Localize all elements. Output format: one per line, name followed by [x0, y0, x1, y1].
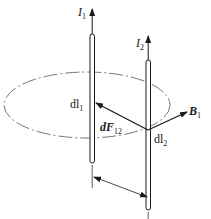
element-label-dl1: dl1	[70, 98, 83, 113]
field-arrow	[148, 112, 187, 130]
wire-2	[146, 36, 151, 219]
field-label-b1: B1	[189, 105, 201, 120]
force-label-df12: dF12	[100, 121, 122, 136]
element-label-dl2: dl2	[154, 133, 167, 148]
distance-arrow	[94, 177, 147, 197]
diagram-canvas	[0, 0, 211, 219]
current-label-i2: I2	[136, 37, 144, 52]
current-label-i1: I1	[78, 6, 86, 21]
wire-1	[90, 9, 95, 188]
